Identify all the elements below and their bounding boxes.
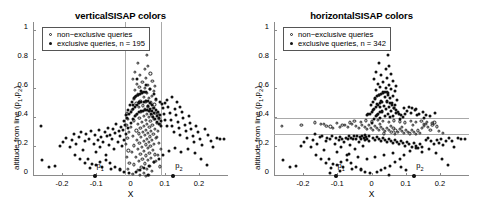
data-point-exclusive <box>388 96 391 99</box>
data-point-nonexclusive <box>147 116 150 119</box>
data-point-exclusive <box>388 164 391 167</box>
data-point-exclusive <box>329 171 332 174</box>
data-point-nonexclusive <box>143 124 146 127</box>
data-point-exclusive <box>163 101 166 104</box>
data-point-nonexclusive <box>393 133 396 136</box>
data-point-exclusive <box>106 127 109 130</box>
data-point-exclusive <box>146 174 149 177</box>
data-point-exclusive <box>401 116 404 119</box>
data-point-exclusive <box>445 140 448 143</box>
data-point-exclusive <box>117 130 120 133</box>
data-point-nonexclusive <box>137 106 140 109</box>
data-point-exclusive <box>180 110 183 113</box>
data-point-exclusive <box>191 134 194 137</box>
data-point-exclusive <box>155 97 158 100</box>
data-point-exclusive <box>351 168 354 171</box>
data-point-exclusive <box>421 151 424 154</box>
data-point-exclusive <box>113 148 116 151</box>
x-tick-label: 0.1 <box>400 179 410 188</box>
y-tick-mark <box>274 30 277 31</box>
chart-title-left: verticalSISAP colors <box>0 10 241 21</box>
data-point-nonexclusive <box>151 124 154 127</box>
data-point-exclusive <box>337 138 340 141</box>
data-point-nonexclusive <box>128 161 131 164</box>
data-point-exclusive <box>382 104 385 107</box>
data-point-exclusive <box>119 135 122 138</box>
data-point-exclusive <box>440 157 443 160</box>
data-point-exclusive <box>206 134 209 137</box>
data-point-nonexclusive <box>145 167 148 170</box>
data-point-exclusive <box>404 168 407 171</box>
data-point-nonexclusive <box>140 121 143 124</box>
data-point-exclusive <box>169 118 172 121</box>
data-point-exclusive <box>294 164 297 167</box>
data-point-exclusive <box>390 110 393 113</box>
data-point-nonexclusive <box>325 124 328 127</box>
data-point-exclusive <box>68 145 71 148</box>
data-point-exclusive <box>371 100 374 103</box>
data-point-exclusive <box>380 110 383 113</box>
pivot-point-marker <box>171 174 175 178</box>
data-point-exclusive <box>73 133 76 136</box>
data-point-nonexclusive <box>387 120 390 123</box>
data-point-exclusive <box>147 164 150 167</box>
data-point-exclusive <box>393 161 396 164</box>
data-point-exclusive <box>390 72 393 75</box>
data-point-exclusive <box>204 127 207 130</box>
data-point-exclusive <box>349 162 352 165</box>
y-axis-line-right <box>274 22 275 176</box>
data-point-nonexclusive <box>358 126 361 129</box>
data-point-exclusive <box>186 136 189 139</box>
data-point-exclusive <box>90 129 93 132</box>
data-point-exclusive <box>447 163 450 166</box>
data-point-nonexclusive <box>144 76 147 79</box>
chart-panel-horizontal: horizontalSISAP colors altitude from lin… <box>241 0 482 207</box>
data-point-exclusive <box>373 156 376 159</box>
data-point-exclusive <box>438 142 441 145</box>
data-point-exclusive <box>173 146 176 149</box>
data-point-exclusive <box>399 166 402 169</box>
data-point-exclusive <box>367 135 370 138</box>
pivot-point-marker <box>334 174 338 178</box>
data-point-exclusive <box>374 89 377 92</box>
data-point-nonexclusive <box>392 119 395 122</box>
y-tick-label: 0.4 <box>18 108 28 117</box>
x-tick-label: -0.2 <box>297 179 310 188</box>
data-point-exclusive <box>398 157 401 160</box>
data-point-exclusive <box>178 127 181 130</box>
data-point-exclusive <box>110 168 113 171</box>
horizontal-reference-line <box>274 134 469 135</box>
data-point-exclusive <box>48 166 51 169</box>
data-point-exclusive <box>108 144 111 147</box>
data-point-exclusive <box>388 116 391 119</box>
data-point-exclusive <box>427 147 430 150</box>
data-point-exclusive <box>209 140 212 143</box>
data-point-exclusive <box>385 76 388 79</box>
data-point-exclusive <box>387 94 390 97</box>
data-point-nonexclusive <box>143 87 146 90</box>
data-point-exclusive <box>387 83 390 86</box>
data-point-nonexclusive <box>377 129 380 132</box>
data-point-nonexclusive <box>136 123 139 126</box>
legend-right: non−exclusive queries exclusive queries,… <box>283 27 391 51</box>
data-point-exclusive <box>378 106 381 109</box>
y-tick-label: 1 <box>265 21 269 30</box>
data-point-nonexclusive <box>382 120 385 123</box>
x-tick-label: 0 <box>128 179 132 188</box>
data-point-exclusive <box>108 162 111 165</box>
data-point-exclusive <box>62 141 65 144</box>
data-point-exclusive <box>41 159 44 162</box>
data-point-nonexclusive <box>143 68 146 71</box>
data-point-nonexclusive <box>126 136 129 139</box>
data-point-nonexclusive <box>149 72 152 75</box>
data-point-exclusive <box>403 153 406 156</box>
data-point-exclusive <box>133 95 136 98</box>
data-point-nonexclusive <box>139 127 142 130</box>
data-point-exclusive <box>212 146 215 149</box>
data-point-nonexclusive <box>332 126 335 129</box>
data-point-exclusive <box>414 146 417 149</box>
data-point-nonexclusive <box>364 119 367 122</box>
data-point-exclusive <box>381 101 384 104</box>
data-point-nonexclusive <box>398 120 401 123</box>
data-point-exclusive <box>184 130 187 133</box>
